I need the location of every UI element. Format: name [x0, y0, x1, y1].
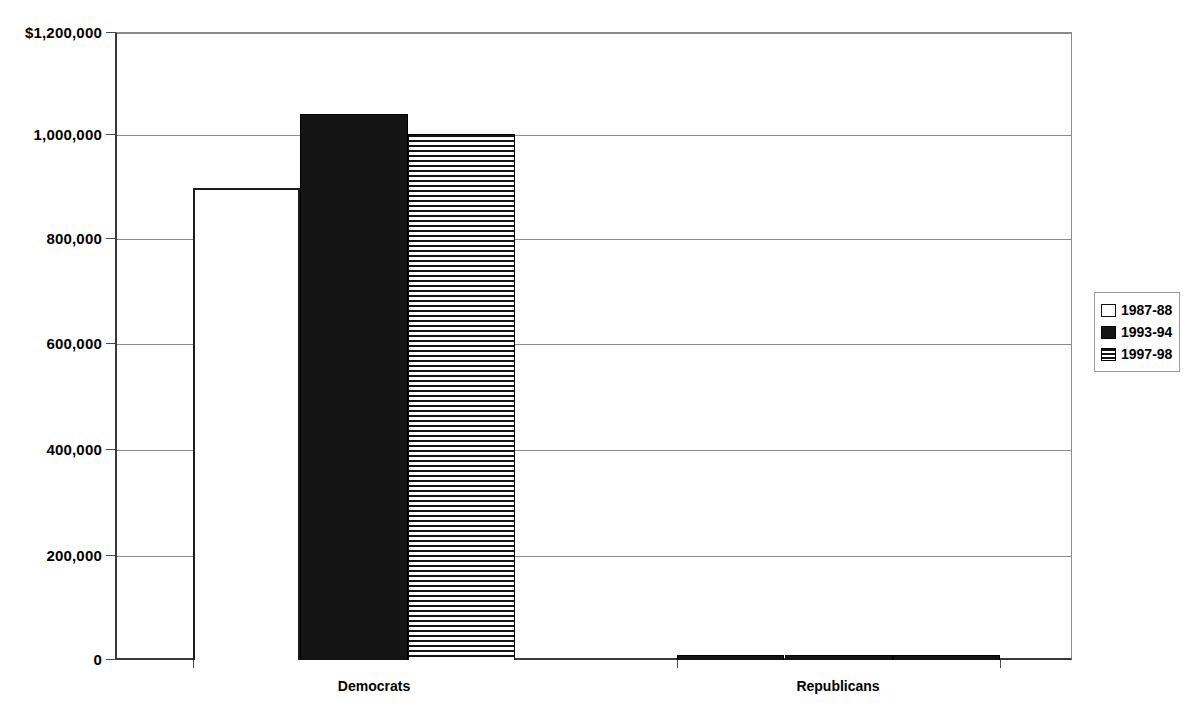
- legend-item-1993-94[interactable]: 1993-94: [1101, 321, 1172, 343]
- ytick-label-200000: 200,000: [4, 547, 102, 564]
- legend-swatch-striped-icon: [1101, 348, 1116, 361]
- xtick-mark-0: [193, 660, 194, 668]
- legend-swatch-solid-icon: [1101, 326, 1116, 339]
- gridline-400000: [117, 450, 1071, 451]
- ytick-label-1200000: $1,200,000: [4, 24, 102, 41]
- ytick-mark-600000: [106, 343, 115, 344]
- plot-area: [115, 32, 1072, 660]
- legend-label-1987-88: 1987-88: [1121, 303, 1172, 317]
- legend-swatch-open-icon: [1101, 304, 1116, 317]
- gridline-1000000: [117, 135, 1071, 136]
- legend-label-1997-98: 1997-98: [1121, 347, 1172, 361]
- xtick-mark-2: [1000, 660, 1001, 668]
- category-label-democrats: Democrats: [274, 678, 474, 694]
- legend: 1987-88 1993-94 1997-98: [1094, 292, 1180, 372]
- ytick-label-400000: 400,000: [4, 441, 102, 458]
- ytick-label-800000: 800,000: [4, 230, 102, 247]
- legend-item-1997-98[interactable]: 1997-98: [1101, 343, 1172, 365]
- gridline-800000: [117, 239, 1071, 240]
- gridline-1200000: [117, 33, 1071, 34]
- ytick-mark-800000: [106, 238, 115, 239]
- ytick-label-1000000: 1,000,000: [4, 126, 102, 143]
- ytick-mark-0: [106, 659, 115, 660]
- gridline-600000: [117, 344, 1071, 345]
- ytick-label-600000: 600,000: [4, 335, 102, 352]
- ytick-mark-200000: [106, 555, 115, 556]
- gridline-200000: [117, 556, 1071, 557]
- xtick-mark-1: [677, 660, 678, 668]
- category-label-republicans: Republicans: [738, 678, 938, 694]
- ytick-mark-1200000: [106, 32, 115, 33]
- ytick-label-0: 0: [4, 651, 102, 668]
- bar-chart: $1,200,000 1,000,000 800,000 600,000 400…: [0, 0, 1194, 703]
- ytick-mark-1000000: [106, 134, 115, 135]
- legend-label-1993-94: 1993-94: [1121, 325, 1172, 339]
- ytick-mark-400000: [106, 449, 115, 450]
- legend-item-1987-88[interactable]: 1987-88: [1101, 299, 1172, 321]
